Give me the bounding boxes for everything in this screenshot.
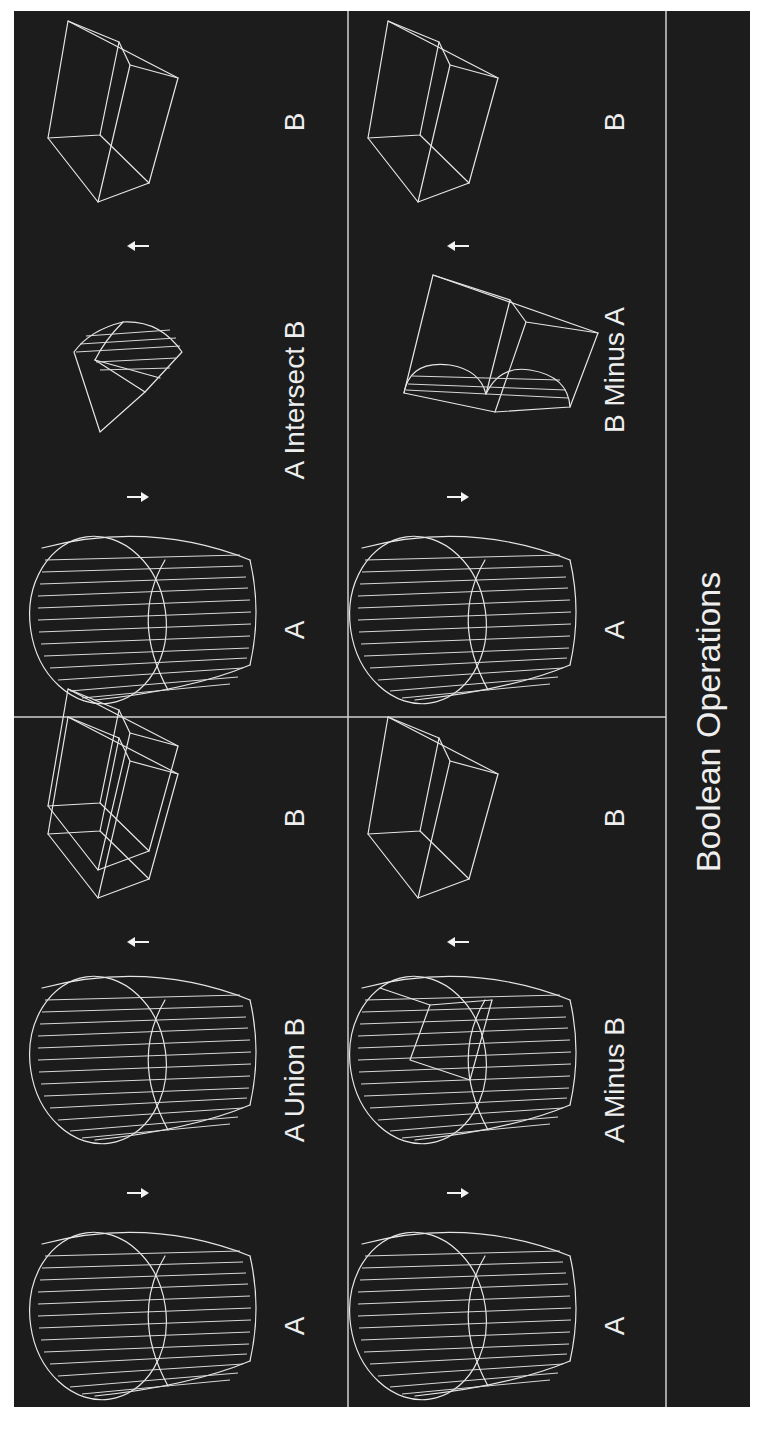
label-a: A [279,1316,310,1335]
label-b: B [599,113,630,132]
figure-panel [14,11,750,1407]
label-a: A [599,1316,630,1335]
label-result: B Minus A [599,307,630,433]
label-b: B [279,113,310,132]
figure-title: Boolean Operations [689,572,727,873]
label-result: A Intersect B [279,321,310,480]
label-a: A [599,620,630,639]
label-b: B [599,809,630,828]
boolean-operations-figure: A A Intersect B B A A Union B B [0,0,763,1437]
label-b: B [279,809,310,828]
label-result: A Minus B [599,1017,630,1143]
label-a: A [279,620,310,639]
label-result: A Union B [279,1018,310,1143]
